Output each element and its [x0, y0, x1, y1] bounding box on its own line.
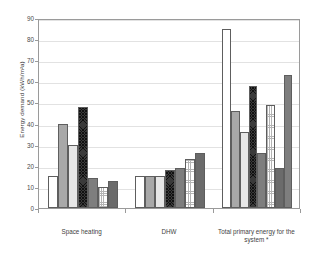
bar — [68, 145, 78, 208]
y-tick-mark — [35, 188, 38, 189]
bar — [222, 29, 231, 208]
bar — [175, 168, 185, 208]
bar — [195, 153, 205, 208]
x-axis-label-line: Total primary energy for the — [206, 228, 306, 236]
y-tick-mark — [35, 146, 38, 147]
bar — [231, 111, 240, 208]
bar — [48, 176, 58, 208]
x-tick-mark — [300, 209, 301, 213]
x-axis-category-label: Space heating — [32, 228, 132, 236]
y-tick-label: 10 — [10, 184, 34, 191]
bar — [145, 176, 155, 208]
bar — [249, 86, 258, 208]
y-tick-label: 60 — [10, 78, 34, 85]
bars-layer — [39, 20, 299, 208]
x-axis-label-line: system * — [206, 236, 306, 244]
x-axis-label-line: DHW — [119, 228, 219, 236]
bar-chart: Energy demand (kWh/m²a) 0102030405060708… — [0, 0, 315, 259]
bar — [165, 170, 175, 208]
bar — [78, 107, 88, 208]
y-tick-label: 40 — [10, 121, 34, 128]
x-axis-label-line: Space heating — [32, 228, 132, 236]
y-tick-mark — [35, 103, 38, 104]
bar — [155, 176, 165, 208]
x-tick-mark — [213, 209, 214, 213]
y-tick-label: 80 — [10, 36, 34, 43]
y-tick-label: 90 — [10, 15, 34, 22]
y-tick-label: 50 — [10, 99, 34, 106]
y-tick-mark — [35, 167, 38, 168]
bar — [135, 176, 145, 208]
bar — [98, 187, 108, 208]
x-tick-mark — [38, 209, 39, 213]
x-tick-mark — [125, 209, 126, 213]
bar — [257, 153, 266, 208]
y-tick-mark — [35, 61, 38, 62]
x-axis-category-label: DHW — [119, 228, 219, 236]
bar — [266, 105, 275, 208]
y-tick-label: 0 — [10, 205, 34, 212]
y-tick-label: 30 — [10, 142, 34, 149]
y-tick-label: 70 — [10, 57, 34, 64]
bar — [88, 178, 98, 208]
plot-area — [38, 19, 300, 209]
bar — [108, 181, 118, 208]
bar — [240, 132, 249, 208]
y-tick-mark — [35, 82, 38, 83]
x-axis-category-label: Total primary energy for thesystem * — [206, 228, 306, 244]
bar — [284, 75, 293, 208]
y-tick-mark — [35, 19, 38, 20]
bar — [185, 159, 195, 208]
y-tick-mark — [35, 125, 38, 126]
y-tick-label: 20 — [10, 163, 34, 170]
bar — [58, 124, 68, 208]
bar — [275, 168, 284, 208]
y-tick-mark — [35, 40, 38, 41]
